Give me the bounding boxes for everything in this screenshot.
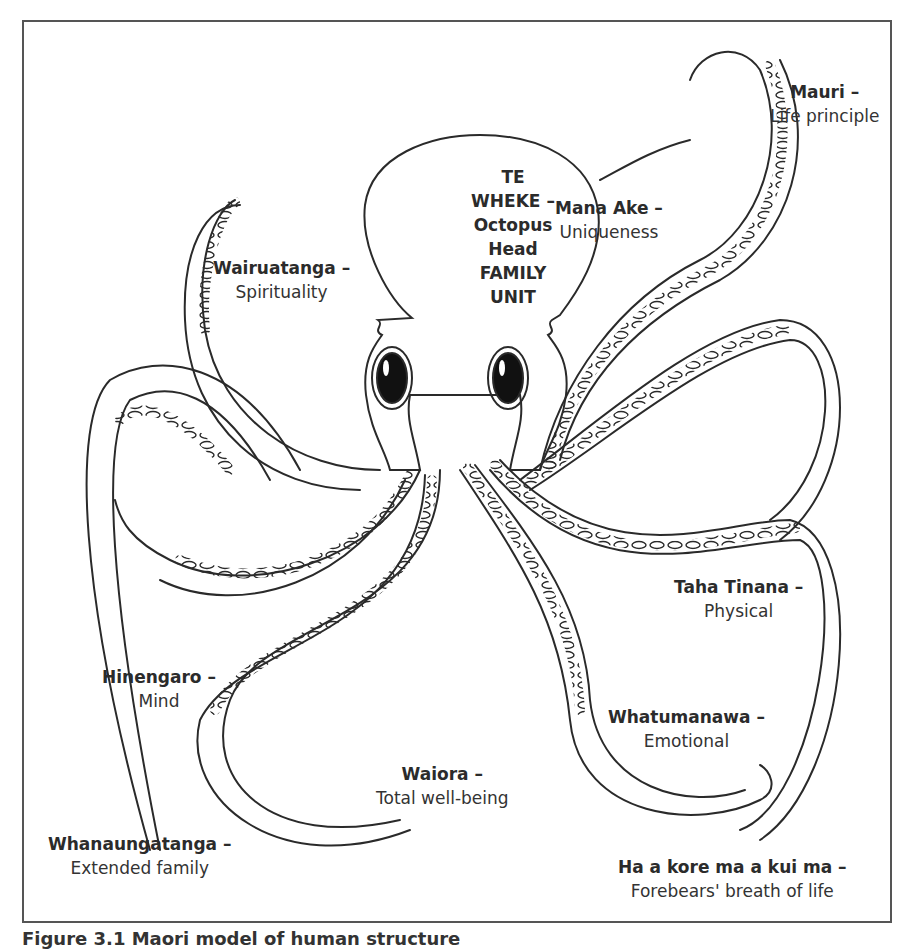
label-desc: Life principle — [770, 104, 879, 128]
label-desc: Spirituality — [213, 280, 350, 304]
label-title: Ha a kore ma a kui ma – — [618, 855, 847, 879]
label-title: Mauri – — [770, 80, 879, 104]
right-eye — [493, 353, 523, 403]
label-title: Mana Ake – — [555, 196, 663, 220]
label-desc: Physical — [674, 599, 803, 623]
figure-caption: Figure 3.1 Maori model of human structur… — [22, 928, 460, 949]
label-desc: Uniqueness — [555, 220, 663, 244]
label-desc: Extended family — [48, 856, 232, 880]
label-title: Waiora – — [376, 762, 509, 786]
label-desc: Forebears' breath of life — [618, 879, 847, 903]
label-taha-tinana: Taha Tinana – Physical — [674, 575, 803, 623]
label-whanaungatanga: Whanaungatanga – Extended family — [48, 832, 232, 880]
label-mauri: Mauri – Life principle — [770, 80, 879, 128]
label-desc: Emotional — [608, 729, 765, 753]
left-eye — [377, 353, 407, 403]
label-mana-ake: Mana Ake – Uniqueness — [555, 196, 663, 244]
head-line: UNIT — [438, 285, 588, 309]
label-waiora: Waiora – Total well-being — [376, 762, 509, 810]
label-whatumanawa: Whatumanawa – Emotional — [608, 705, 765, 753]
label-title: Whanaungatanga – — [48, 832, 232, 856]
label-ha-a-kore: Ha a kore ma a kui ma – Forebears' breat… — [618, 855, 847, 903]
head-line: TE — [438, 165, 588, 189]
label-title: Hinengaro – — [102, 665, 216, 689]
head-line: FAMILY — [438, 261, 588, 285]
label-title: Wairuatanga – — [213, 256, 350, 280]
label-title: Whatumanawa – — [608, 705, 765, 729]
label-desc: Mind — [102, 689, 216, 713]
label-desc: Total well-being — [376, 786, 509, 810]
label-wairuatanga: Wairuatanga – Spirituality — [213, 256, 350, 304]
label-title: Taha Tinana – — [674, 575, 803, 599]
label-hinengaro: Hinengaro – Mind — [102, 665, 216, 713]
